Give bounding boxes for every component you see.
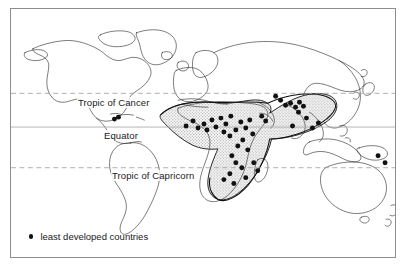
country-dot	[259, 114, 264, 119]
world-map-svg	[11, 9, 395, 257]
coastline-north-america	[33, 40, 151, 121]
country-dot	[283, 103, 288, 108]
country-dot	[209, 118, 214, 123]
country-dot	[227, 171, 232, 176]
coastline-iceland	[161, 52, 172, 60]
country-dot	[233, 128, 238, 133]
country-dot	[235, 143, 240, 148]
country-dot	[228, 114, 233, 119]
country-dot	[273, 94, 278, 99]
country-dot	[191, 119, 196, 124]
coastline-scandinavia	[192, 50, 218, 77]
shaded-region-group	[160, 94, 337, 200]
map-stage: Tropic of Cancer Equator Tropic of Capri…	[11, 9, 395, 257]
country-dot	[221, 177, 226, 182]
country-dot	[293, 105, 298, 110]
coastline-tasmania	[360, 216, 369, 223]
country-dot	[184, 124, 189, 129]
country-dot	[316, 121, 321, 126]
country-dot	[116, 115, 121, 120]
country-dot	[213, 125, 218, 130]
country-dot	[383, 160, 388, 165]
coastline-indonesia	[303, 139, 360, 162]
world-map-figure: Tropic of Cancer Equator Tropic of Capri…	[0, 0, 408, 268]
country-dot	[304, 116, 309, 121]
country-dot	[301, 104, 306, 109]
coastline-europe	[173, 67, 208, 101]
country-dot	[288, 101, 293, 106]
country-dot	[196, 126, 201, 131]
country-dot	[229, 153, 234, 158]
country-dot	[247, 118, 252, 123]
country-dot	[221, 130, 226, 135]
country-dot	[231, 181, 236, 186]
label-tropic-of-cancer: Tropic of Cancer	[77, 97, 150, 108]
country-dot	[238, 120, 243, 125]
country-dot	[233, 160, 238, 165]
country-dot	[251, 160, 256, 165]
label-equator: Equator	[103, 130, 139, 141]
map-legend: least developed countries	[29, 231, 148, 242]
country-dot	[240, 137, 245, 142]
shaded-region-africa-asia	[160, 94, 337, 200]
country-dot	[310, 126, 315, 131]
coastline-new-guinea	[357, 146, 388, 161]
country-dot	[239, 165, 244, 170]
country-dot	[245, 147, 250, 152]
legend-dot-icon	[29, 234, 33, 238]
label-tropic-of-capricorn: Tropic of Capricorn	[111, 170, 195, 181]
country-dot	[202, 122, 207, 127]
coastline-philippines	[339, 125, 350, 142]
country-dot	[297, 100, 302, 105]
coastline-south-america	[109, 143, 159, 235]
coastline-new-zealand	[385, 205, 395, 227]
country-dot	[223, 122, 228, 127]
country-dot	[290, 124, 295, 129]
country-dot	[263, 119, 268, 124]
country-dot	[243, 126, 248, 131]
coastline-canadian-arctic	[98, 31, 135, 47]
country-dot	[255, 168, 260, 173]
country-dot	[218, 116, 223, 121]
country-dot	[243, 175, 248, 180]
country-dot	[376, 153, 381, 158]
country-dot	[227, 133, 232, 138]
map-frame: Tropic of Cancer Equator Tropic of Capri…	[10, 8, 396, 258]
coastline-british-isles	[177, 61, 189, 71]
country-dot	[204, 128, 209, 133]
coastline-russia-north	[214, 41, 364, 94]
country-dot	[250, 132, 255, 137]
legend-label: least developed countries	[40, 231, 148, 242]
coastline-australia	[320, 162, 386, 214]
country-dot	[278, 98, 283, 103]
country-dot	[296, 110, 301, 115]
coastline-alaska	[24, 50, 47, 61]
